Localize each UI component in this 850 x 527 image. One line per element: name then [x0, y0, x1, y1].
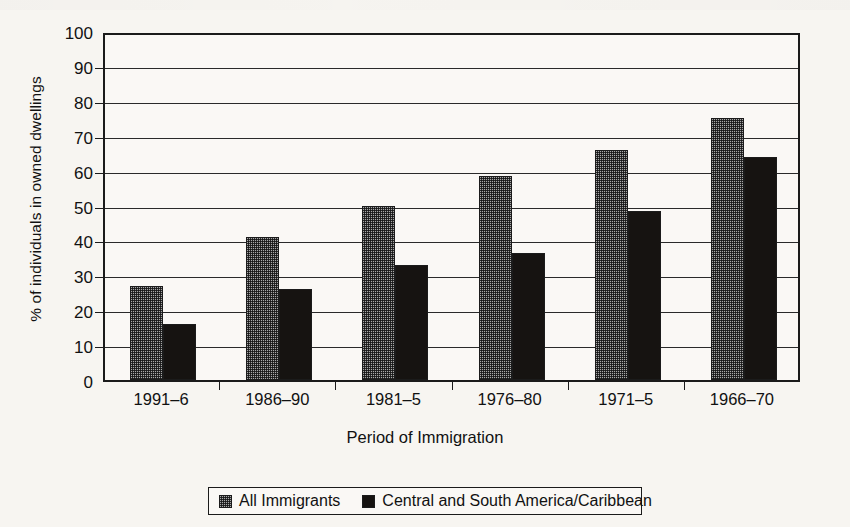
- legend-item: Central and South America/Caribbean: [362, 492, 652, 510]
- x-tick-label: 1981–5: [333, 390, 453, 409]
- y-tick-mark: [95, 242, 103, 243]
- x-tick-mark: [219, 382, 220, 390]
- x-tick-mark: [568, 382, 569, 390]
- bar: [130, 286, 163, 380]
- bar: [163, 324, 196, 380]
- y-tick-label: 50: [35, 199, 93, 216]
- y-tick-label: 20: [35, 304, 93, 321]
- y-tick-label: 80: [35, 94, 93, 111]
- bar: [744, 157, 777, 380]
- bar-group: [221, 35, 337, 380]
- y-tick-label: 40: [35, 234, 93, 251]
- x-tick-mark: [452, 382, 453, 390]
- bar: [479, 176, 512, 380]
- bar-series-container: [105, 35, 798, 380]
- legend-item: All Immigrants: [219, 492, 340, 510]
- y-tick-mark: [95, 173, 103, 174]
- plot-area: [103, 33, 800, 382]
- x-tick-label: 1976–80: [450, 390, 570, 409]
- black-solid-swatch-icon: [362, 495, 375, 508]
- x-tick-label: 1966–70: [682, 390, 802, 409]
- x-axis-title: Period of Immigration: [0, 428, 850, 447]
- chart-legend: All Immigrants Central and South America…: [208, 487, 642, 515]
- bar: [512, 253, 545, 380]
- y-tick-label: 30: [35, 269, 93, 286]
- bar-group: [337, 35, 453, 380]
- legend-item-label: Central and South America/Caribbean: [382, 492, 652, 510]
- y-tick-mark: [95, 277, 103, 278]
- y-tick-label: 90: [35, 59, 93, 76]
- y-tick-label: 100: [35, 25, 93, 42]
- y-tick-label: 10: [35, 339, 93, 356]
- bar: [246, 237, 279, 380]
- x-tick-label: 1971–5: [566, 390, 686, 409]
- bar-group: [454, 35, 570, 380]
- y-tick-mark: [95, 103, 103, 104]
- bar: [362, 206, 395, 381]
- bar: [395, 265, 428, 380]
- x-tick-label: 1991–6: [101, 390, 221, 409]
- x-tick-mark: [335, 382, 336, 390]
- x-tick-label: 1986–90: [217, 390, 337, 409]
- bar: [279, 289, 312, 380]
- y-tick-mark: [95, 208, 103, 209]
- y-tick-mark: [95, 312, 103, 313]
- bar: [628, 211, 661, 380]
- y-tick-mark: [95, 68, 103, 69]
- y-tick-mark: [95, 138, 103, 139]
- legend-item-label: All Immigrants: [239, 492, 340, 510]
- y-tick-label: 70: [35, 129, 93, 146]
- y-tick-label: 60: [35, 164, 93, 181]
- y-tick-mark: [95, 347, 103, 348]
- y-tick-label: 0: [35, 374, 93, 391]
- x-tick-mark: [684, 382, 685, 390]
- bar: [595, 150, 628, 380]
- chart-figure: % of individuals in owned dwellings 0102…: [0, 0, 850, 527]
- gray-checkered-swatch-icon: [219, 495, 232, 508]
- bar: [711, 118, 744, 380]
- bar-group: [105, 35, 221, 380]
- bar-group: [686, 35, 802, 380]
- bar-group: [570, 35, 686, 380]
